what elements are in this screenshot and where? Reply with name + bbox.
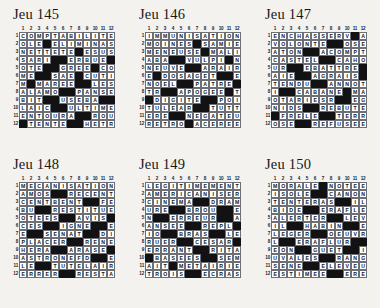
grid-cell[interactable]: T xyxy=(43,48,51,56)
grid-cell[interactable]: I xyxy=(327,222,335,230)
grid-cell[interactable]: S xyxy=(217,254,225,262)
grid-cell[interactable]: L xyxy=(225,230,233,238)
grid-cell[interactable]: G xyxy=(59,64,67,72)
grid-cell[interactable]: N xyxy=(107,182,115,190)
grid-cell[interactable]: I xyxy=(59,222,67,230)
grid-cell[interactable]: E xyxy=(177,254,185,262)
grid-cell[interactable]: R xyxy=(295,214,303,222)
grid-cell[interactable]: E xyxy=(19,230,27,238)
grid-cell[interactable]: R xyxy=(209,64,217,72)
grid-cell[interactable]: I xyxy=(351,198,359,206)
grid-cell[interactable]: O xyxy=(351,80,359,88)
grid-cell[interactable]: A xyxy=(327,80,335,88)
grid-cell[interactable]: P xyxy=(19,238,27,246)
grid-cell[interactable]: I xyxy=(35,104,43,112)
grid-cell[interactable]: E xyxy=(153,48,161,56)
grid-cell[interactable]: N xyxy=(359,190,367,198)
grid-cell[interactable]: U xyxy=(233,112,241,120)
grid-cell[interactable]: I xyxy=(359,246,367,254)
grid-cell[interactable]: T xyxy=(359,48,367,56)
grid-cell[interactable]: E xyxy=(51,48,59,56)
grid-cell[interactable]: E xyxy=(225,112,233,120)
grid-cell[interactable]: F xyxy=(327,120,335,128)
grid-cell[interactable]: P xyxy=(209,56,217,64)
grid-cell[interactable]: T xyxy=(75,230,83,238)
grid-cell[interactable]: C xyxy=(209,270,217,278)
grid-cell[interactable]: E xyxy=(107,198,115,206)
grid-cell[interactable]: L xyxy=(83,32,91,40)
grid-cell[interactable]: M xyxy=(271,182,279,190)
grid-cell[interactable]: C xyxy=(83,72,91,80)
grid-cell[interactable]: I xyxy=(169,270,177,278)
grid-cell[interactable]: T xyxy=(75,198,83,206)
grid-cell[interactable]: U xyxy=(271,254,279,262)
grid-cell[interactable]: E xyxy=(279,262,287,270)
grid-cell[interactable]: T xyxy=(59,48,67,56)
grid-cell[interactable]: A xyxy=(201,32,209,40)
grid-cell[interactable]: E xyxy=(271,270,279,278)
grid-cell[interactable]: A xyxy=(193,190,201,198)
grid-cell[interactable]: T xyxy=(99,270,107,278)
grid-cell[interactable]: I xyxy=(145,32,153,40)
grid-cell[interactable]: N xyxy=(327,88,335,96)
grid-cell[interactable]: E xyxy=(233,262,241,270)
grid-cell[interactable]: A xyxy=(279,56,287,64)
grid-cell[interactable]: S xyxy=(311,254,319,262)
grid-cell[interactable]: R xyxy=(217,270,225,278)
grid-cell[interactable]: N xyxy=(43,120,51,128)
grid-cell[interactable]: E xyxy=(201,72,209,80)
grid-cell[interactable]: I xyxy=(209,190,217,198)
grid-cell[interactable]: M xyxy=(19,182,27,190)
grid-cell[interactable]: E xyxy=(177,64,185,72)
grid-cell[interactable]: S xyxy=(91,246,99,254)
grid-cell[interactable]: E xyxy=(351,214,359,222)
grid-cell[interactable]: R xyxy=(303,230,311,238)
grid-cell[interactable]: E xyxy=(351,120,359,128)
grid-cell[interactable]: R xyxy=(335,254,343,262)
grid-cell[interactable]: T xyxy=(279,96,287,104)
grid-cell[interactable]: E xyxy=(83,222,91,230)
grid-cell[interactable]: N xyxy=(19,48,27,56)
grid-cell[interactable]: E xyxy=(107,238,115,246)
grid-cell[interactable]: L xyxy=(161,104,169,112)
grid-cell[interactable]: L xyxy=(311,56,319,64)
grid-cell[interactable]: E xyxy=(193,112,201,120)
grid-cell[interactable]: U xyxy=(59,262,67,270)
grid-cell[interactable]: A xyxy=(271,48,279,56)
grid-cell[interactable]: T xyxy=(91,206,99,214)
grid-cell[interactable]: N xyxy=(161,48,169,56)
grid-cell[interactable]: I xyxy=(27,96,35,104)
grid-cell[interactable]: E xyxy=(67,56,75,64)
grid-cell[interactable]: E xyxy=(59,80,67,88)
grid-cell[interactable]: U xyxy=(217,104,225,112)
grid-cell[interactable]: L xyxy=(201,56,209,64)
grid-cell[interactable]: S xyxy=(107,48,115,56)
grid-cell[interactable]: B xyxy=(19,206,27,214)
grid-cell[interactable]: E xyxy=(303,254,311,262)
grid-cell[interactable]: L xyxy=(279,222,287,230)
grid-cell[interactable]: S xyxy=(271,262,279,270)
grid-cell[interactable]: E xyxy=(75,262,83,270)
grid-cell[interactable]: T xyxy=(217,112,225,120)
grid-cell[interactable]: E xyxy=(193,48,201,56)
grid-cell[interactable]: A xyxy=(145,190,153,198)
grid-cell[interactable]: A xyxy=(311,72,319,80)
grid-cell[interactable]: E xyxy=(161,206,169,214)
grid-cell[interactable]: U xyxy=(343,230,351,238)
grid-cell[interactable]: H xyxy=(295,32,303,40)
grid-cell[interactable]: V xyxy=(83,214,91,222)
grid-cell[interactable]: S xyxy=(295,104,303,112)
grid-cell[interactable]: R xyxy=(303,238,311,246)
grid-cell[interactable]: U xyxy=(99,48,107,56)
grid-cell[interactable]: L xyxy=(19,262,27,270)
grid-cell[interactable]: P xyxy=(43,32,51,40)
grid-cell[interactable]: I xyxy=(225,64,233,72)
grid-cell[interactable]: C xyxy=(185,190,193,198)
grid-cell[interactable]: I xyxy=(225,262,233,270)
grid-cell[interactable]: M xyxy=(233,254,241,262)
grid-cell[interactable]: M xyxy=(153,190,161,198)
grid-cell[interactable]: E xyxy=(359,104,367,112)
grid-cell[interactable]: S xyxy=(185,48,193,56)
grid-cell[interactable]: R xyxy=(51,270,59,278)
grid-cell[interactable]: E xyxy=(279,198,287,206)
